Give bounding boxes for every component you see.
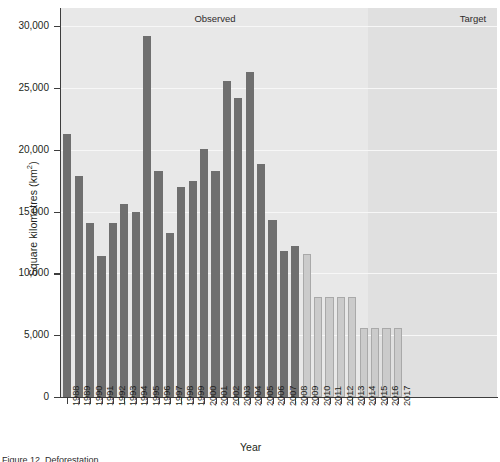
- bar-1993[interactable]: [120, 204, 128, 397]
- x-axis-tick: [227, 398, 228, 404]
- figure-caption: Figure 12. Deforestation: [2, 455, 99, 462]
- y-axis-tick: [54, 212, 61, 213]
- bar-1990[interactable]: [86, 223, 94, 397]
- y-axis-tick-label: 30,000: [0, 20, 49, 31]
- bar-2003[interactable]: [234, 98, 242, 397]
- bar-2006[interactable]: [268, 220, 276, 397]
- x-axis-tick: [67, 398, 68, 404]
- bar-2004[interactable]: [246, 72, 254, 397]
- y-axis-tick: [54, 397, 61, 398]
- x-axis-tick: [193, 398, 194, 404]
- y-axis-line: [60, 8, 61, 398]
- bar-1998[interactable]: [177, 187, 185, 397]
- x-axis-tick: [375, 398, 376, 404]
- x-axis-tick: [341, 398, 342, 404]
- x-axis-tick: [170, 398, 171, 404]
- x-axis-tick: [318, 398, 319, 404]
- x-axis-tick: [136, 398, 137, 404]
- x-axis-tick: [102, 398, 103, 404]
- y-axis-tick: [54, 150, 61, 151]
- bar-2010[interactable]: [314, 297, 322, 397]
- x-axis-tick-label-2017: 2017: [402, 386, 412, 406]
- bar-1995[interactable]: [143, 36, 151, 397]
- y-axis-tick-label: 20,000: [0, 144, 49, 155]
- bar-2013[interactable]: [348, 297, 356, 397]
- x-axis-tick: [250, 398, 251, 404]
- x-axis-tick: [387, 398, 388, 404]
- x-axis-tick: [147, 398, 148, 404]
- y-axis-tick: [54, 26, 61, 27]
- bar-1989[interactable]: [75, 176, 83, 397]
- bar-1988[interactable]: [63, 134, 71, 397]
- y-axis-title: Square kilometres (km2): [25, 99, 39, 339]
- gridline: [61, 88, 497, 89]
- x-axis-tick: [216, 398, 217, 404]
- gridline: [61, 26, 497, 27]
- x-axis-tick: [124, 398, 125, 404]
- x-axis-tick: [352, 398, 353, 404]
- bar-2000[interactable]: [200, 149, 208, 397]
- bar-1997[interactable]: [166, 233, 174, 397]
- x-axis-tick: [90, 398, 91, 404]
- x-axis-tick: [330, 398, 331, 404]
- target-region-label: Target: [423, 13, 500, 24]
- bar-1999[interactable]: [189, 181, 197, 397]
- y-axis-tick: [54, 88, 61, 89]
- y-axis-title-superscript: 2: [25, 165, 34, 169]
- bar-2007[interactable]: [280, 251, 288, 397]
- y-axis-tick: [54, 335, 61, 336]
- bar-2008[interactable]: [291, 246, 299, 397]
- x-axis-title: Year: [240, 441, 261, 453]
- y-axis-tick-label: 5,000: [0, 329, 49, 340]
- x-axis-tick: [261, 398, 262, 404]
- bar-2001[interactable]: [211, 171, 219, 397]
- gridline: [61, 150, 497, 151]
- bar-1992[interactable]: [109, 223, 117, 397]
- x-axis-tick: [295, 398, 296, 404]
- x-axis-tick: [204, 398, 205, 404]
- x-axis-tick: [159, 398, 160, 404]
- x-axis-tick: [113, 398, 114, 404]
- y-axis-title-text: Square kilometres (km: [27, 169, 39, 276]
- y-axis-title-close: ): [27, 161, 39, 165]
- bar-2011[interactable]: [325, 297, 333, 397]
- bar-1996[interactable]: [154, 171, 162, 397]
- observed-region-label: Observed: [165, 13, 265, 24]
- y-axis-tick-label: 25,000: [0, 82, 49, 93]
- x-axis-tick: [273, 398, 274, 404]
- plot-area: Observed Target: [61, 8, 497, 398]
- bar-2009[interactable]: [303, 254, 311, 397]
- bar-2005[interactable]: [257, 164, 265, 397]
- y-axis-tick: [54, 273, 61, 274]
- x-axis-tick: [181, 398, 182, 404]
- y-axis-tick-label: 10,000: [0, 267, 49, 278]
- x-axis-tick: [307, 398, 308, 404]
- x-axis-tick: [79, 398, 80, 404]
- bar-1994[interactable]: [132, 212, 140, 397]
- bar-2002[interactable]: [223, 81, 231, 397]
- chart-figure: Square kilometres (km2) Observed Target …: [0, 0, 500, 462]
- y-axis-tick-label: 0: [0, 391, 49, 402]
- y-axis-tick-label: 15,000: [0, 206, 49, 217]
- x-axis-tick: [238, 398, 239, 404]
- bar-2012[interactable]: [337, 297, 345, 397]
- x-axis-tick: [398, 398, 399, 404]
- bar-1991[interactable]: [97, 256, 105, 397]
- x-axis-tick: [364, 398, 365, 404]
- x-axis-tick: [284, 398, 285, 404]
